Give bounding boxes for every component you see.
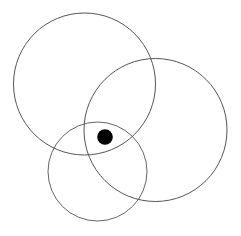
intersection-dot [97, 129, 113, 145]
venn-diagram [0, 0, 241, 236]
background [0, 0, 241, 236]
